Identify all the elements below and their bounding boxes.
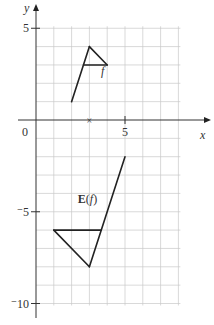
- y-axis-arrow-icon: [33, 4, 39, 11]
- shape-label: f: [101, 64, 106, 78]
- axes: y x 0: [18, 1, 211, 318]
- shape-labels: fE(f): [78, 64, 106, 206]
- x-axis-label: x: [199, 128, 206, 142]
- shape-segment: [72, 47, 90, 102]
- x-tick-label: 5: [122, 125, 128, 139]
- shape-segment: [89, 47, 107, 65]
- y-tick-label: ⁻5: [17, 205, 29, 219]
- y-tick-label: 5: [23, 21, 29, 35]
- x-marker-icon: ×: [87, 115, 93, 126]
- shape-label: E(f): [78, 192, 97, 206]
- y-tick-label: ⁻10: [11, 297, 29, 311]
- origin-label: 0: [22, 125, 28, 139]
- grid: [36, 26, 180, 305]
- diagram-figure: y x 0 5⁻5⁻105 fE(f) ×: [0, 0, 214, 325]
- y-axis-label: y: [23, 1, 30, 15]
- x-axis-arrow-icon: [204, 117, 211, 123]
